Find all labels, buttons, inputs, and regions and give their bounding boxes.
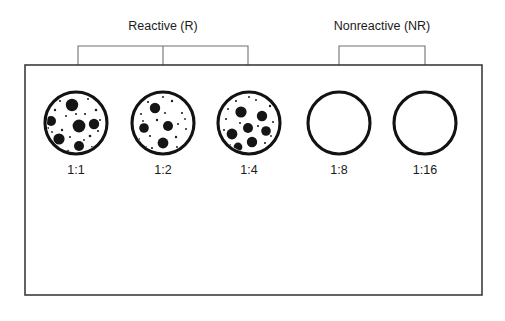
well-label: 1:1 [67,163,84,177]
figure-canvas: Reactive (R) Nonreactive (NR) [0,0,505,321]
agglutination-titration-figure: Reactive (R) Nonreactive (NR) [0,0,505,321]
well-outline [394,92,456,154]
well-label: 1:4 [240,163,257,177]
well-outline [308,92,370,154]
well-label: 1:16 [413,163,437,177]
well-label: 1:8 [330,163,347,177]
bracket-label-nonreactive: Nonreactive (NR) [334,19,431,33]
well-label: 1:2 [154,163,171,177]
bracket-label-reactive: Reactive (R) [128,19,197,33]
